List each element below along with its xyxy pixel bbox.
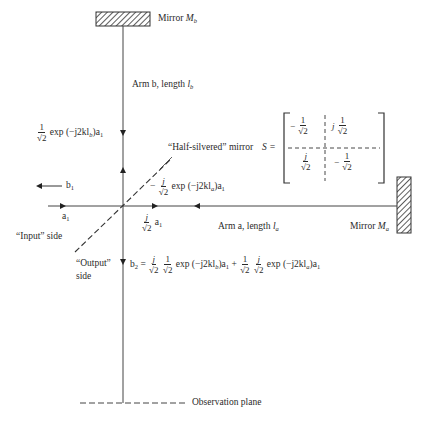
arrow-left-arm-a [194,203,200,209]
b2-equation: b2 = j√2 1√2 exp (−j2klb)a1 + 1√2 j√2 ex… [130,254,320,276]
arrow-right-input [60,203,66,209]
mirror-mb [96,12,150,26]
matrix-cell-12: j 1√2 [332,115,348,137]
input-side-label: “Input” side [16,232,62,242]
scattering-matrix: − 1√2 j 1√2 j√2 − 1√2 [282,113,386,183]
arm-a-return-signal: − j√2 exp (−j2kla)a1 [150,176,225,198]
half-silvered-leader [160,157,172,169]
arm-b-return-signal: 1√2 exp (−j2klb)a1 [36,122,103,144]
half-silvered-label: “Half-silvered” mirror [168,143,253,153]
a1-label: a1 [62,212,69,223]
output-side-label: “Output” side [76,259,111,281]
mirror-ma [397,177,411,233]
arrow-right-arm-a [152,203,158,209]
matrix-cell-11: − 1√2 [290,115,309,137]
arrow-down-output [120,259,126,265]
arm-b-label: Arm b, length lb [132,80,193,91]
arm-a-forward-signal: j√2 a1 [141,212,162,234]
b1-arrow-head [36,183,42,189]
matrix-cell-21: j√2 [300,151,311,173]
matrix-cell-22: − 1√2 [334,151,353,173]
arrow-up-arm-b [120,167,126,173]
arm-a-label: Arm a, length la [218,222,279,233]
arrow-down-arm-b [120,130,126,136]
mirror-mb-label: Mirror Mb [158,14,197,25]
b1-label: b1 [66,181,74,192]
observation-plane-label: Observation plane [192,398,261,408]
matrix-symbol: S = [262,143,276,153]
mirror-ma-label: Mirror Ma [350,222,389,233]
